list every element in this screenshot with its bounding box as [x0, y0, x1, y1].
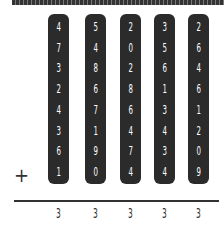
- digit: 3: [56, 121, 60, 140]
- digit: 1: [56, 162, 60, 181]
- answer-digit: 3: [124, 205, 137, 221]
- plus-sign: +: [14, 163, 29, 187]
- digit: 0: [93, 162, 97, 181]
- digit: 9: [196, 162, 200, 181]
- digit: 8: [128, 79, 132, 98]
- digit: 6: [93, 79, 97, 98]
- digit: 2: [128, 17, 132, 36]
- digit: 2: [56, 79, 60, 98]
- digit: 3: [56, 58, 60, 77]
- digit-column: 54867190: [85, 14, 106, 184]
- digit: 4: [93, 38, 97, 57]
- digit: 7: [93, 100, 97, 119]
- digit: 7: [56, 38, 60, 57]
- digit: 6: [128, 100, 132, 119]
- digit: 6: [56, 141, 60, 160]
- digit: 4: [128, 162, 132, 181]
- digit: 6: [196, 38, 200, 57]
- digit: 8: [93, 58, 97, 77]
- answer-digit: 3: [158, 205, 171, 221]
- top-border: [12, 0, 224, 5]
- answer-digit: 3: [89, 205, 102, 221]
- digit: 3: [162, 100, 166, 119]
- answer-digit: 3: [192, 205, 205, 221]
- digit-column: 26461209: [188, 14, 209, 184]
- digit: 4: [196, 58, 200, 77]
- digit: 4: [162, 162, 166, 181]
- digit: 1: [196, 100, 200, 119]
- digit: 5: [162, 38, 166, 57]
- digit: 6: [162, 58, 166, 77]
- digit: 4: [128, 121, 132, 140]
- answer-digit: 3: [52, 205, 65, 221]
- digit: 6: [196, 79, 200, 98]
- digit: 2: [128, 58, 132, 77]
- digit: 3: [162, 17, 166, 36]
- digit: 1: [162, 79, 166, 98]
- digit: 2: [196, 17, 200, 36]
- sum-line: [14, 200, 219, 202]
- digit: 4: [56, 17, 60, 36]
- digit-column: 20286474: [120, 14, 141, 184]
- digit: 3: [162, 141, 166, 160]
- digit: 0: [196, 141, 200, 160]
- digit: 4: [56, 100, 60, 119]
- digit: 0: [128, 38, 132, 57]
- digit: 7: [128, 141, 132, 160]
- digit: 9: [93, 141, 97, 160]
- digit-column: 47324361: [48, 14, 69, 184]
- digit: 4: [162, 121, 166, 140]
- digit: 2: [196, 121, 200, 140]
- digit-column: 35613434: [154, 14, 175, 184]
- digit: 5: [93, 17, 97, 36]
- digit: 1: [93, 121, 97, 140]
